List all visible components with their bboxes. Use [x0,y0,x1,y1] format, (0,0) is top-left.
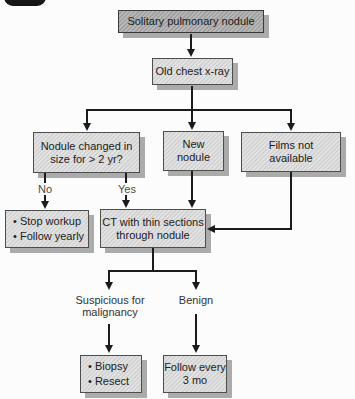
node-solitary-pulmonary-nodule: Solitary pulmonary nodule [118,10,264,33]
node-label: • Biopsy [88,359,128,374]
node-label: size for > 2 yr? [50,153,122,166]
node-old-chest-xray: Old chest x-ray [152,58,233,85]
edge-label-yes: Yes [111,183,143,195]
arrowhead-down-icon [188,200,196,208]
arrowhead-left-icon [207,225,215,233]
node-label: New [182,138,204,151]
node-label: • Resect [88,374,129,389]
edge-label-no: No [31,183,59,195]
connector-line [195,314,197,345]
flowchart-solitary-pulmonary-nodule: Solitary pulmonary nodule Old chest x-ra… [0,0,355,399]
figure-tab [4,0,46,6]
node-label: nodule [177,151,210,164]
connector-line [191,171,193,201]
arrowhead-down-icon [41,201,49,209]
node-new-nodule: New nodule [163,131,224,171]
node-label: Follow every [164,361,226,374]
connector-line [108,270,197,272]
node-biopsy-resect: • Biopsy • Resect [80,355,142,393]
arrowhead-down-icon [192,345,200,353]
arrowhead-down-icon [105,282,113,290]
connector-line [290,172,292,230]
node-nodule-changed: Nodule changed in size for > 2 yr? [33,132,140,173]
connector-line [86,109,88,124]
node-label: • Follow yearly [13,229,84,244]
node-label: Nodule changed in [41,140,133,153]
connector-line [290,109,292,124]
node-ct-thin-sections: CT with thin sections through nodule [100,209,206,248]
node-label: available [269,152,312,165]
connector-line [86,109,292,111]
arrowhead-down-icon [122,200,130,208]
connector-line [108,324,110,345]
connector-line [152,248,154,271]
connector-line [191,109,193,123]
arrowhead-down-icon [188,122,196,130]
connector-line [191,86,193,110]
node-stop-workup: • Stop workup • Follow yearly [5,210,89,248]
arrowhead-down-icon [192,282,200,290]
edge-label-line: Suspicious for [72,294,148,306]
node-label: 3 mo [183,374,207,387]
arrowhead-down-icon [105,345,113,353]
arrowhead-down-icon [187,49,195,57]
node-label: Old chest x-ray [156,65,230,78]
edge-label-benign: Benign [171,294,221,306]
node-follow-every-3mo: Follow every 3 mo [163,355,227,393]
connector-line [190,34,192,50]
node-label: Films not [269,139,314,152]
node-label: through nodule [116,229,189,242]
edge-label-suspicious: Suspicious for malignancy [72,294,148,318]
edge-label-line: malignancy [72,306,148,318]
node-films-not-available: Films not available [241,132,341,172]
node-label: CT with thin sections [102,216,203,229]
connector-line [213,228,292,230]
arrowhead-down-icon [83,123,91,131]
node-label: • Stop workup [13,214,81,229]
arrowhead-down-icon [287,123,295,131]
node-label: Solitary pulmonary nodule [127,15,254,28]
